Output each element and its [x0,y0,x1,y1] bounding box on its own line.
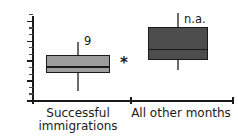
y-minor-tick [29,74,33,75]
x-axis-line [32,100,234,102]
box1-annotation: 9 [84,36,91,48]
box2-annotation: n.a. [184,14,206,26]
box2-upper-whisker [177,13,179,28]
y-axis-line [32,16,34,101]
category-label-all-other-months: All other months [126,107,236,120]
category-label-line1: Successful [22,107,134,120]
y-tick-mark [27,80,33,82]
x-tick-end [232,97,234,104]
box2-body [148,27,208,59]
y-tick-mark [27,21,33,23]
y-minor-tick [29,47,33,48]
category-label-line1: All other months [126,107,236,120]
y-minor-tick [29,87,33,88]
box2-lower-whisker [177,60,179,70]
significance-asterisk: * [120,56,128,71]
y-minor-tick [29,27,33,28]
x-tick-middle [130,97,132,104]
y-tick-mark [27,60,33,62]
box1-upper-whisker [77,42,79,55]
y-minor-tick [29,67,33,68]
box1-lower-whisker [77,73,79,91]
box1-median-line [46,66,110,68]
y-minor-tick [29,14,33,15]
category-label-successful-immigrations: Successful immigrations [22,107,134,134]
box2-median-line [148,49,208,51]
category-label-line2: immigrations [22,120,134,133]
box1-body [46,55,110,73]
x-tick-start [32,97,34,104]
y-minor-tick [29,54,33,55]
y-minor-tick [29,34,33,35]
y-minor-tick [29,93,33,94]
boxplot-chart: 12 9 6 3 0 9 * n.a. Successful [0,0,238,136]
y-tick-mark [27,41,33,43]
